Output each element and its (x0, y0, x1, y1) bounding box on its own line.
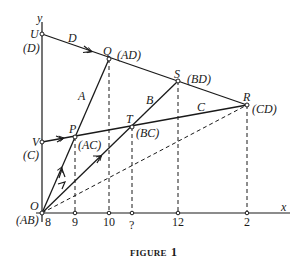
point-p-label: P (68, 122, 77, 136)
x-tick-8: 8 (45, 215, 51, 229)
point-r-tag: (CD) (252, 102, 277, 116)
point-u-tag: (D) (23, 41, 40, 55)
point-t-label: T (126, 112, 134, 126)
x-tick-12: 12 (172, 215, 184, 229)
line-a-label: A (77, 89, 86, 103)
point-s-tag: (BD) (187, 72, 211, 86)
point-r-label: R (242, 90, 251, 104)
line-b-label: B (146, 93, 154, 107)
point-v-tag: (C) (23, 148, 39, 162)
figure-caption-number: 1 (171, 245, 177, 259)
point-q-label: Q (103, 44, 112, 58)
x-axis-label: x (280, 200, 287, 214)
point-u-label: U (30, 27, 40, 41)
line-d-label: D (67, 31, 77, 45)
x-tick-unknown: ? (129, 218, 134, 232)
arrow-icons (56, 46, 101, 189)
point-o-tag: (AB) (16, 213, 39, 227)
figure-caption-word: FIGURE (130, 248, 167, 258)
figure-diagram: y x U (0, 0, 303, 267)
line-c-label: C (197, 100, 206, 114)
point-s-label: S (174, 67, 180, 81)
x-tick-2: 2 (244, 215, 250, 229)
x-tick-9: 9 (72, 215, 78, 229)
y-axis-label: y (36, 11, 43, 25)
point-o-label: O (30, 199, 39, 213)
point-q-tag: (AD) (117, 48, 141, 62)
line-b (42, 81, 178, 213)
x-tick-10: 10 (103, 215, 115, 229)
point-t-tag: (BC) (136, 126, 159, 140)
point-p-tag: (AC) (78, 138, 101, 152)
